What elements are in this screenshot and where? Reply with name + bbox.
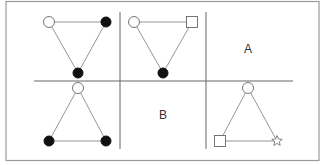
edge-top-middle <box>163 22 192 73</box>
open-circle-node-icon <box>44 17 55 28</box>
filled-circle-node-icon <box>101 17 111 27</box>
open-circle-node-icon <box>243 83 254 94</box>
open-star-node-icon <box>272 136 282 146</box>
panel-label-a: A <box>244 42 252 56</box>
panel-grid <box>34 12 293 149</box>
triangle-graph-diagram: A B <box>0 0 321 165</box>
open-square-node-icon <box>187 17 198 28</box>
filled-circle-node-icon <box>44 136 54 146</box>
panel-label-b: B <box>159 108 167 122</box>
filled-circle-node-icon <box>73 68 83 78</box>
open-square-node-icon <box>215 136 226 147</box>
filled-circle-node-icon <box>101 136 111 146</box>
edge-top-left <box>78 22 106 73</box>
edge-bottom-left <box>49 88 78 141</box>
edge-top-middle <box>134 22 163 73</box>
edge-top-left <box>49 22 78 73</box>
open-circle-node-icon <box>129 17 140 28</box>
edge-bottom-right <box>220 88 248 141</box>
edge-bottom-right <box>248 88 277 141</box>
edge-bottom-left <box>78 88 106 141</box>
filled-circle-node-icon <box>158 68 168 78</box>
open-circle-node-icon <box>73 83 84 94</box>
